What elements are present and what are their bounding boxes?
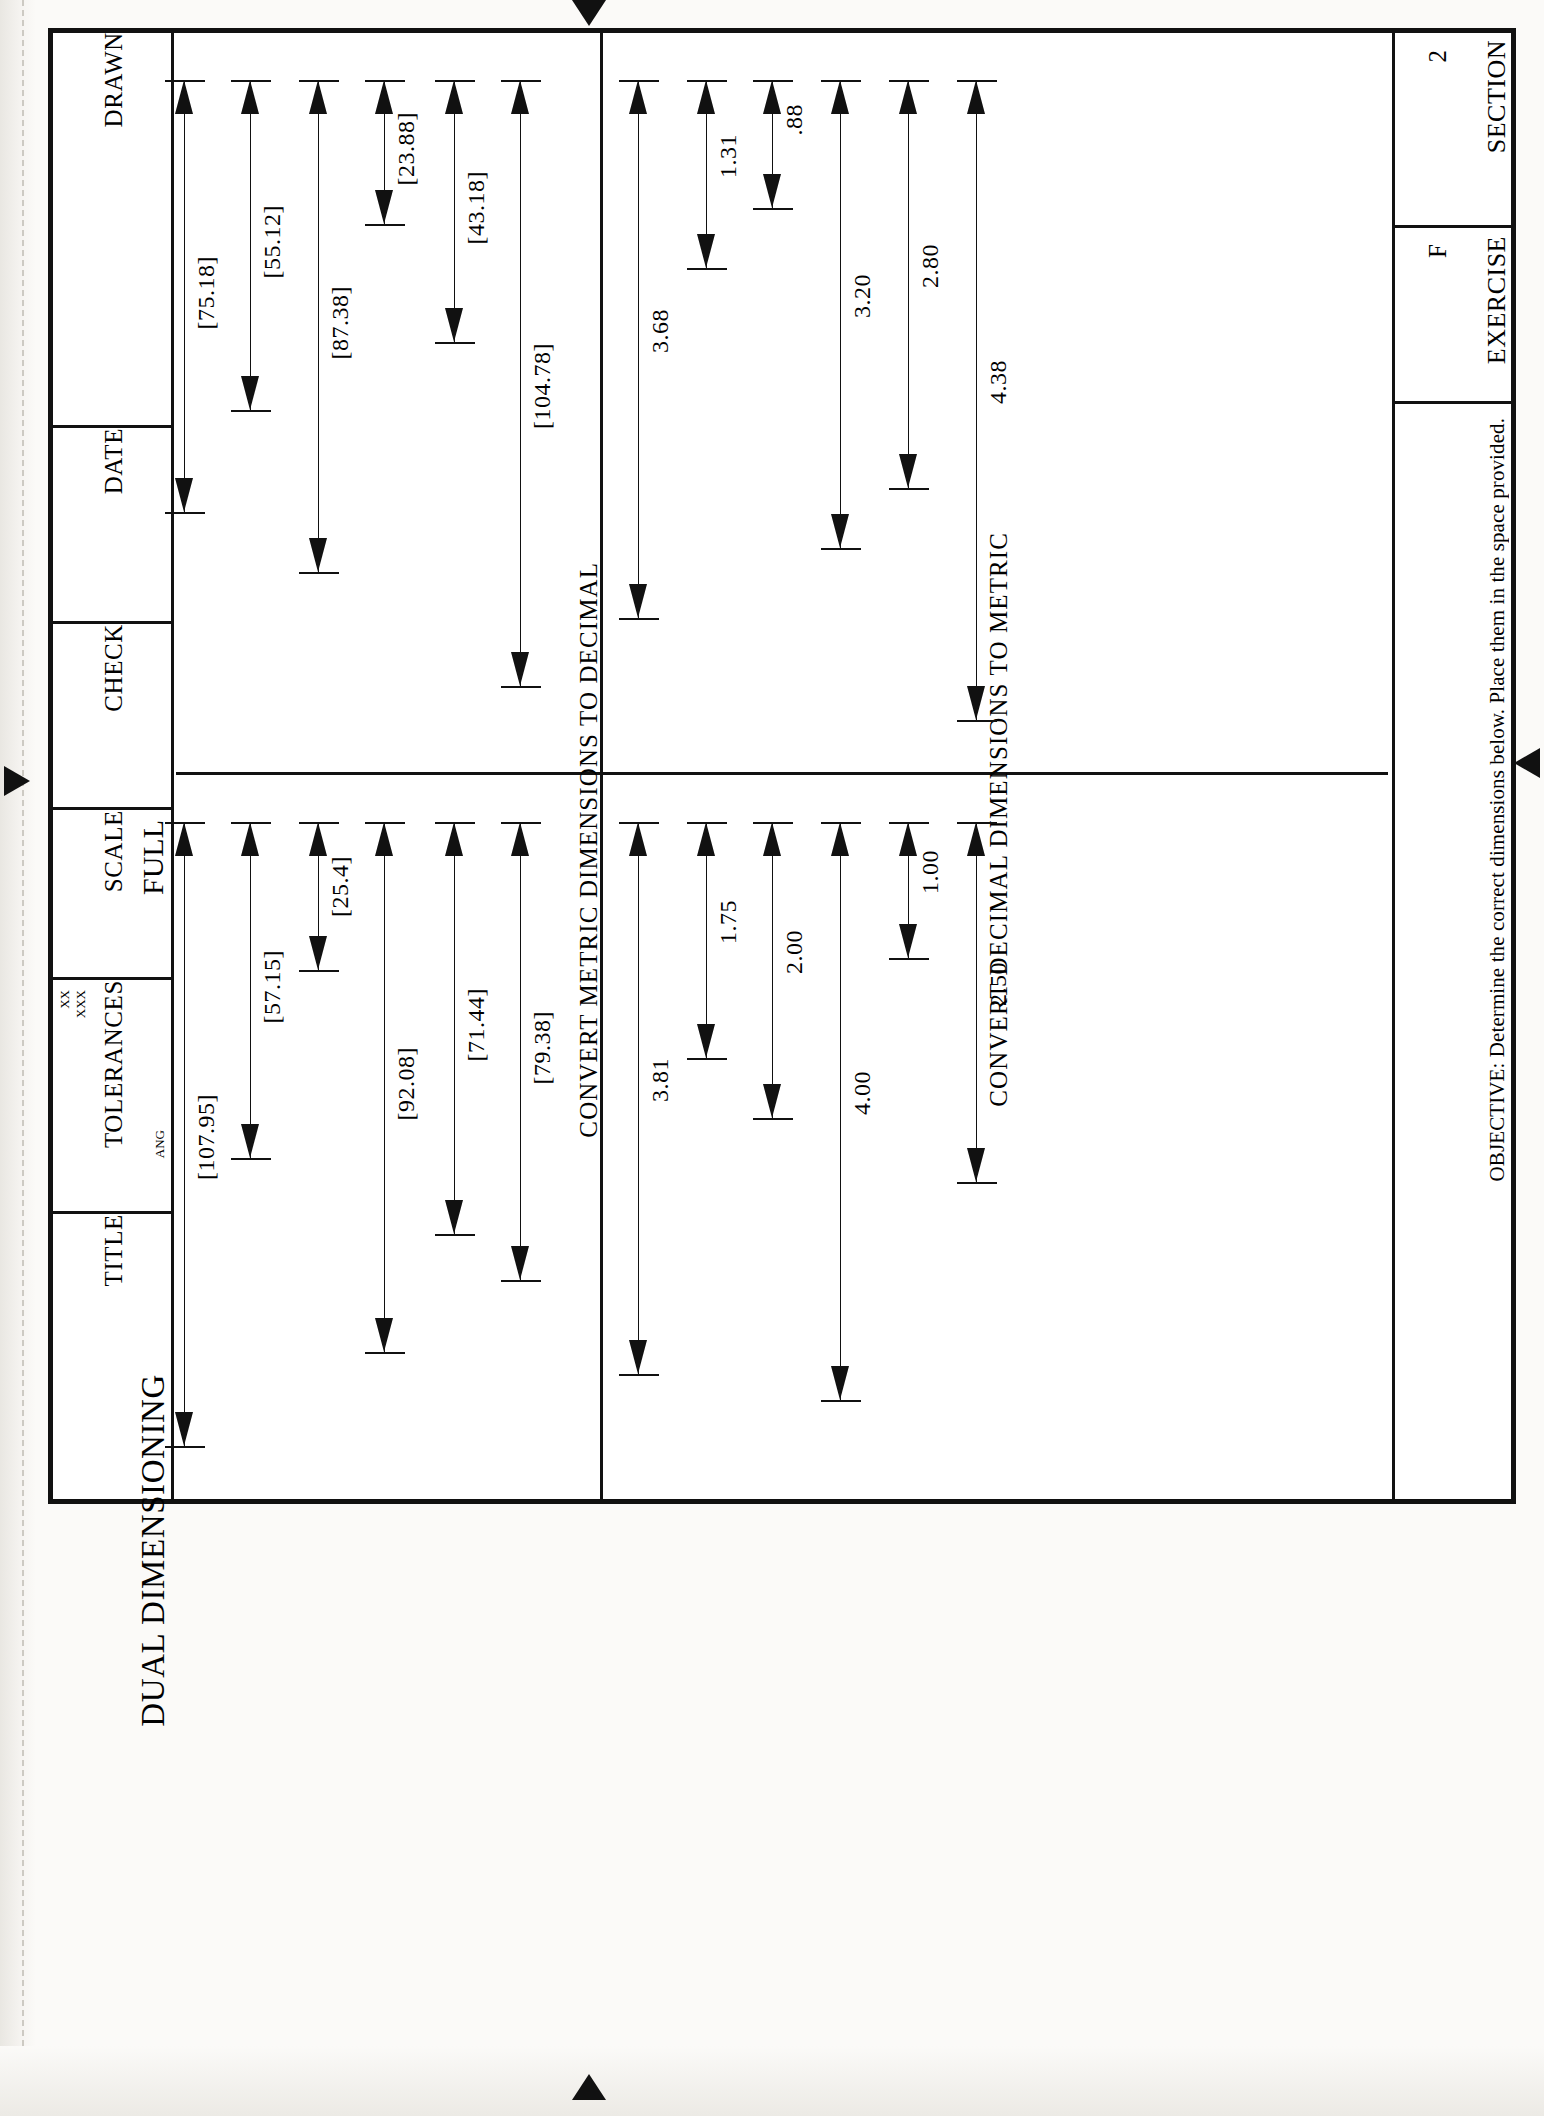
arrowhead-down-icon: [763, 1084, 781, 1118]
arrowhead-down-icon: [697, 1024, 715, 1058]
arrowhead-up-icon: [697, 80, 715, 114]
title-block-field-title[interactable]: TITLE DUAL DIMENSIONING: [52, 1214, 174, 1500]
dimension-line: [454, 80, 455, 342]
dimension-line: [976, 822, 977, 1182]
arrowhead-down-icon: [899, 454, 917, 488]
arrowhead-down-icon: [511, 652, 529, 686]
arrowhead-up-icon: [831, 822, 849, 856]
title-block-field-drawn[interactable]: DRAWN: [52, 32, 174, 428]
title-block-field-check[interactable]: CHECK: [52, 624, 174, 810]
extension-line-bottom: [753, 1118, 793, 1120]
extension-line-bottom: [957, 720, 997, 722]
arrowhead-down-icon: [445, 308, 463, 342]
dimension-value-label: [55.12]: [260, 205, 284, 282]
center-mark-right-icon: [1514, 748, 1540, 778]
dimension-value-label: 4.00: [850, 1071, 874, 1119]
dimension-value-label: 1.00: [918, 850, 942, 898]
arrowhead-up-icon: [445, 80, 463, 114]
extension-line-bottom: [501, 686, 541, 688]
exercise-work-area: CONVERT DECIMAL DIMENSIONS TO METRIC CON…: [176, 32, 1388, 1500]
dimension-value-label: [87.38]: [328, 286, 352, 363]
dimension-value-label: 3.68: [648, 309, 672, 357]
dimension-line: [318, 80, 319, 572]
scale-value: FULL: [138, 820, 168, 899]
arrowhead-up-icon: [763, 822, 781, 856]
dimension-line: [184, 822, 185, 1446]
arrowhead-down-icon: [309, 538, 327, 572]
dimension-value-label: [23.88]: [394, 112, 418, 189]
dimension-value-label: [57.15]: [260, 950, 284, 1027]
drawing-title-value: DUAL DIMENSIONING: [137, 1374, 170, 1731]
extension-line-bottom: [821, 548, 861, 550]
header-block: SECTION 2 EXERCISE F OBJECTIVE: Determin…: [1392, 32, 1512, 1500]
arrowhead-up-icon: [241, 822, 259, 856]
dimension-value-label: [25.4]: [328, 856, 352, 921]
title-block-field-date[interactable]: DATE: [52, 428, 174, 624]
extension-line-bottom: [957, 1182, 997, 1184]
extension-line-bottom: [365, 224, 405, 226]
arrowhead-down-icon: [445, 1200, 463, 1234]
lower-exercise-row-divider: [176, 772, 600, 775]
arrowhead-up-icon: [175, 80, 193, 114]
extension-line-bottom: [299, 572, 339, 574]
tolerances-label: TOLERANCES: [52, 980, 174, 1211]
dimension-value-label: 1.75: [716, 900, 740, 948]
title-block-field-scale[interactable]: SCALE FULL: [52, 810, 174, 980]
dimension-value-label: 3.20: [850, 274, 874, 322]
exercise-label: EXERCISE: [1484, 236, 1510, 368]
arrowhead-up-icon: [967, 80, 985, 114]
extension-line-bottom: [889, 958, 929, 960]
dimension-line: [250, 80, 251, 410]
section-label: SECTION: [1484, 40, 1510, 157]
extension-line-bottom: [889, 488, 929, 490]
arrowhead-up-icon: [967, 822, 985, 856]
dimension-line: [184, 80, 185, 512]
tolerance-xxx-label: XXX: [74, 990, 87, 1022]
extension-line-bottom: [435, 1234, 475, 1236]
section-value: 2: [1425, 48, 1450, 66]
scan-fold-line: [22, 0, 24, 2116]
dimension-line: [520, 80, 521, 686]
dimension-value-label: [43.18]: [464, 171, 488, 248]
extension-line-bottom: [821, 1400, 861, 1402]
arrowhead-up-icon: [175, 822, 193, 856]
arrowhead-up-icon: [241, 80, 259, 114]
center-mark-bottom-icon: [572, 2074, 606, 2100]
dimension-line: [454, 822, 455, 1234]
center-mark-top-icon: [572, 0, 606, 26]
extension-line-bottom: [619, 1374, 659, 1376]
dimension-line: [706, 822, 707, 1058]
extension-line-bottom: [687, 268, 727, 270]
dimension-value-label: .88: [782, 104, 806, 140]
drawn-label: DRAWN: [52, 32, 174, 425]
dimension-line: [638, 80, 639, 618]
dimension-line: [772, 822, 773, 1118]
title-block-field-tolerances[interactable]: TOLERANCES XX XXX ANG: [52, 980, 174, 1214]
arrowhead-down-icon: [831, 1366, 849, 1400]
dimension-line: [976, 80, 977, 720]
dimension-value-label: 2.80: [918, 244, 942, 292]
extension-line-bottom: [165, 1446, 205, 1448]
arrowhead-down-icon: [763, 174, 781, 208]
arrowhead-down-icon: [831, 514, 849, 548]
arrowhead-down-icon: [899, 924, 917, 958]
dimension-value-label: 1.31: [716, 134, 740, 182]
dimension-value-label: 2.50: [986, 962, 1010, 1010]
arrowhead-down-icon: [241, 376, 259, 410]
arrowhead-up-icon: [375, 822, 393, 856]
dimension-line: [840, 822, 841, 1400]
arrowhead-down-icon: [629, 584, 647, 618]
extension-line-bottom: [753, 208, 793, 210]
arrowhead-down-icon: [241, 1124, 259, 1158]
arrowhead-down-icon: [309, 936, 327, 970]
arrowhead-up-icon: [899, 80, 917, 114]
arrowhead-up-icon: [511, 80, 529, 114]
dimension-line: [840, 80, 841, 548]
header-field-section[interactable]: SECTION 2: [1392, 32, 1512, 228]
arrowhead-up-icon: [899, 822, 917, 856]
header-field-exercise[interactable]: EXERCISE F: [1392, 228, 1512, 404]
extension-line-bottom: [619, 618, 659, 620]
dimension-value-label: [79.38]: [530, 1011, 554, 1088]
dimension-line: [638, 822, 639, 1374]
header-field-objective: OBJECTIVE: Determine the correct dimensi…: [1392, 404, 1512, 1500]
